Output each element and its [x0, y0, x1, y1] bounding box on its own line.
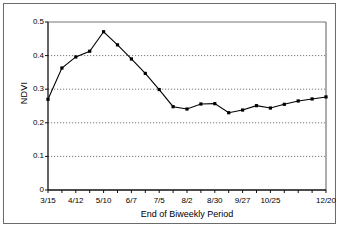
data-point-marker: [269, 106, 272, 109]
data-point-marker: [297, 99, 300, 102]
y-tick-label: 0.5: [20, 17, 44, 26]
data-point-marker: [144, 72, 147, 75]
data-point-marker: [311, 97, 314, 100]
data-point-marker: [116, 43, 119, 46]
data-point-marker: [324, 95, 327, 98]
data-point-marker: [213, 102, 216, 105]
x-tick-label: 4/12: [61, 196, 91, 205]
data-point-marker: [88, 50, 91, 53]
data-point-marker: [130, 57, 133, 60]
x-axis-title: End of Biweekly Period: [48, 209, 326, 219]
data-point-marker: [255, 104, 258, 107]
data-point-marker: [158, 88, 161, 91]
y-tick-label: 0.4: [20, 51, 44, 60]
x-tick-label: 5/10: [89, 196, 119, 205]
data-point-marker: [60, 66, 63, 69]
x-tick-label: 7/5: [144, 196, 174, 205]
ndvi-line-chart: NDVI End of Biweekly Period 00.10.20.30.…: [0, 0, 344, 231]
y-tick-label: 0.3: [20, 84, 44, 93]
x-tick-label: 8/2: [172, 196, 202, 205]
x-tick-label: 12/20: [311, 196, 341, 205]
data-point-marker: [102, 30, 105, 33]
y-tick-label: 0.2: [20, 118, 44, 127]
x-tick-label: 9/27: [228, 196, 258, 205]
x-tick-label: 6/7: [116, 196, 146, 205]
data-point-marker: [46, 98, 49, 101]
y-tick-label: 0: [20, 185, 44, 194]
data-point-marker: [227, 111, 230, 114]
data-series-line: [48, 32, 326, 113]
x-tick-label: 3/15: [33, 196, 63, 205]
data-point-marker: [74, 55, 77, 58]
data-point-marker: [185, 107, 188, 110]
data-point-marker: [283, 103, 286, 106]
x-tick-label: 10/25: [255, 196, 285, 205]
data-point-marker: [199, 102, 202, 105]
data-point-marker: [241, 108, 244, 111]
y-tick-label: 0.1: [20, 151, 44, 160]
x-tick-label: 8/30: [200, 196, 230, 205]
data-point-marker: [172, 105, 175, 108]
